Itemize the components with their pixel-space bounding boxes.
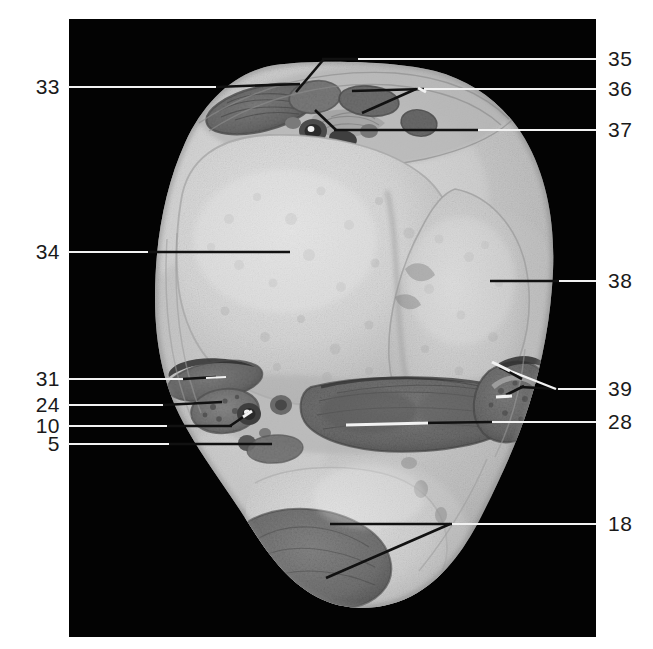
label-33: 33 [18, 76, 60, 97]
label-5: 5 [18, 433, 60, 454]
label-34: 34 [18, 241, 60, 262]
label-35: 35 [608, 48, 632, 69]
label-24: 24 [18, 394, 60, 415]
specimen-photo-plate [69, 19, 596, 637]
label-39: 39 [608, 378, 632, 399]
label-36: 36 [608, 78, 632, 99]
label-28: 28 [608, 411, 632, 432]
label-37: 37 [608, 119, 632, 140]
label-18: 18 [608, 513, 632, 534]
label-31: 31 [18, 368, 60, 389]
label-38: 38 [608, 270, 632, 291]
figure-root: 33 34 31 24 10 5 35 36 37 38 39 28 18 [0, 0, 653, 649]
anatomical-cross-section-image [69, 19, 596, 637]
